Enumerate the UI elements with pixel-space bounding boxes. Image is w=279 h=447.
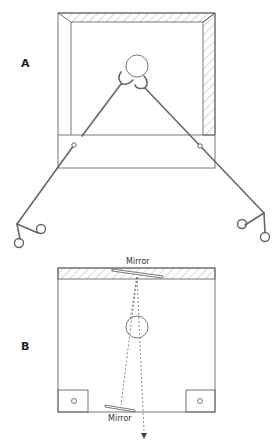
panel-b-box [58,268,215,412]
ring-left-1 [37,225,46,234]
mirror-bottom [105,405,135,412]
ring-right-2 [261,233,270,242]
ring-left-2 [15,239,24,248]
ball-b [126,316,148,338]
port-hole-right [198,399,203,404]
mirror-bottom-label: Mirror [108,414,132,423]
arrow-head [141,433,147,439]
diagram-canvas: Mirror Mirror [0,0,279,447]
ball-a [126,55,148,77]
instrument-right [135,76,265,232]
port-hole-left [72,399,77,404]
mirror-top-label: Mirror [126,257,150,266]
port-left [72,143,76,147]
port-right [198,144,202,148]
panel-a-box [58,13,215,168]
instrument-left [17,72,133,239]
